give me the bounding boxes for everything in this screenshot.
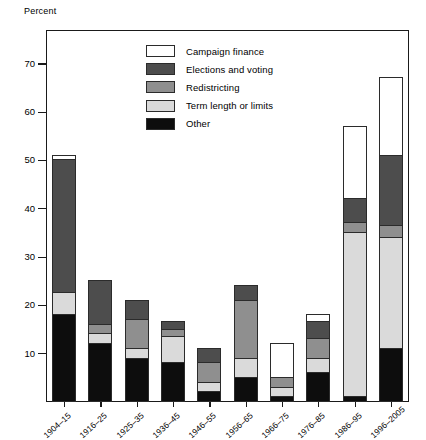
x-tick-mark <box>355 402 356 407</box>
bar-segment-other <box>125 358 149 402</box>
x-tick-label: 1966–75 <box>259 410 290 440</box>
x-tick-mark <box>209 402 210 407</box>
legend-label: Redistricting <box>186 82 240 93</box>
bar-1976-85 <box>306 315 330 402</box>
bar-segment-term-length-or-limits <box>234 358 258 378</box>
y-tick-mark <box>38 257 46 258</box>
bar-segment-other <box>234 377 258 402</box>
bar-segment-term-length-or-limits <box>270 387 294 398</box>
bar-1936-45 <box>161 322 185 402</box>
bar-segment-redistricting <box>161 329 185 337</box>
bar-segment-elections-and-voting <box>161 321 185 329</box>
bar-segment-redistricting <box>125 319 149 349</box>
bar-1946-55 <box>197 349 221 402</box>
x-tick-label: 1916–25 <box>78 410 109 440</box>
y-tick-mark <box>38 353 46 354</box>
bar-segment-term-length-or-limits <box>306 358 330 373</box>
bar-segment-term-length-or-limits <box>88 333 112 344</box>
y-tick-label: 60 <box>24 106 35 117</box>
bar-segment-elections-and-voting <box>306 321 330 339</box>
x-tick-mark <box>64 402 65 407</box>
bar-segment-term-length-or-limits <box>52 292 76 315</box>
bar-segment-campaign-finance <box>379 77 403 155</box>
bar-segment-elections-and-voting <box>343 198 367 223</box>
x-tick-label: 1925–35 <box>114 410 145 440</box>
bar-1916-25 <box>88 281 112 402</box>
bar-segment-elections-and-voting <box>88 280 112 324</box>
x-tick-mark <box>246 402 247 407</box>
bar-segment-elections-and-voting <box>125 300 149 320</box>
bar-segment-term-length-or-limits <box>161 336 185 364</box>
y-tick-label: 20 <box>24 299 35 310</box>
bar-segment-elections-and-voting <box>234 285 258 300</box>
y-tick-mark <box>38 305 46 306</box>
bar-segment-elections-and-voting <box>379 155 403 226</box>
y-tick-mark <box>38 63 46 64</box>
bar-segment-term-length-or-limits <box>343 232 367 397</box>
legend-item-campaign-finance: Campaign finance <box>146 42 273 60</box>
x-tick-label: 1976–85 <box>296 410 327 440</box>
x-tick-mark <box>318 402 319 407</box>
legend-swatch-icon <box>146 45 175 57</box>
bar-segment-redistricting <box>379 225 403 238</box>
legend-item-elections-and-voting: Elections and voting <box>146 60 273 78</box>
bar-segment-elections-and-voting <box>52 159 76 293</box>
y-tick-mark <box>38 112 46 113</box>
legend-swatch-icon <box>146 118 175 130</box>
bar-segment-redistricting <box>88 324 112 335</box>
bar-segment-other <box>379 348 403 402</box>
bar-segment-redistricting <box>270 377 294 388</box>
x-tick-mark <box>391 402 392 407</box>
stacked-bar-chart: Percent 10203040506070 1904–151916–25192… <box>0 0 426 440</box>
legend-item-other: Other <box>146 115 273 133</box>
bar-segment-term-length-or-limits <box>197 382 221 393</box>
x-tick-mark <box>100 402 101 407</box>
y-tick-mark <box>38 208 46 209</box>
bar-segment-other <box>306 372 330 402</box>
bar-segment-redistricting <box>306 338 330 358</box>
legend-swatch-icon <box>146 100 175 112</box>
x-tick-mark <box>173 402 174 407</box>
x-tick-label: 1996–2005 <box>368 404 407 440</box>
y-tick-mark <box>38 160 46 161</box>
bar-segment-campaign-finance <box>270 343 294 378</box>
y-axis-unit-label: Percent <box>24 6 56 16</box>
x-tick-label: 1956–65 <box>223 410 254 440</box>
legend-item-redistricting: Redistricting <box>146 78 273 96</box>
legend-label: Term length or limits <box>186 100 273 111</box>
legend-label: Other <box>186 118 210 129</box>
bar-1996-2005 <box>379 78 403 402</box>
x-tick-label: 1904–15 <box>42 410 73 440</box>
bar-1986-95 <box>343 127 367 402</box>
chart-legend: Campaign financeElections and votingRedi… <box>146 42 273 133</box>
bar-segment-other <box>88 343 112 402</box>
legend-swatch-icon <box>146 81 175 93</box>
bar-segment-other <box>197 391 221 402</box>
bar-segment-term-length-or-limits <box>379 237 403 349</box>
x-tick-label: 1946–55 <box>187 410 218 440</box>
bar-1956-65 <box>234 286 258 402</box>
bar-segment-other <box>52 314 76 402</box>
x-tick-mark <box>137 402 138 407</box>
bar-segment-redistricting <box>197 362 221 382</box>
bar-segment-redistricting <box>234 300 258 359</box>
y-tick-label: 30 <box>24 251 35 262</box>
bar-1925-35 <box>125 301 149 402</box>
y-tick-label: 10 <box>24 348 35 359</box>
bar-1966-75 <box>270 344 294 402</box>
y-tick-label: 50 <box>24 154 35 165</box>
bar-segment-campaign-finance <box>306 314 330 322</box>
x-tick-mark <box>282 402 283 407</box>
x-tick-label: 1936–45 <box>150 410 181 440</box>
bar-segment-elections-and-voting <box>197 348 221 363</box>
legend-label: Campaign finance <box>186 46 264 57</box>
bar-1904-15 <box>52 156 76 402</box>
bar-segment-term-length-or-limits <box>125 348 149 359</box>
y-tick-label: 40 <box>24 203 35 214</box>
bar-segment-campaign-finance <box>343 126 367 199</box>
legend-label: Elections and voting <box>186 64 273 75</box>
legend-swatch-icon <box>146 63 175 75</box>
bar-segment-campaign-finance <box>52 155 76 161</box>
legend-item-term-length-or-limits: Term length or limits <box>146 97 273 115</box>
y-tick-label: 70 <box>24 58 35 69</box>
